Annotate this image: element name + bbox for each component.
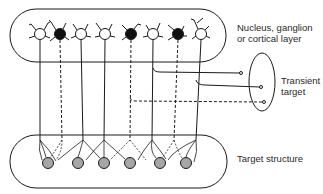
solid-axons xyxy=(40,40,260,140)
source-neurons xyxy=(29,18,210,41)
dashed-axons xyxy=(60,40,262,140)
open-neuron xyxy=(95,23,115,40)
open-neuron xyxy=(143,23,163,40)
target-cells xyxy=(43,158,192,169)
open-neuron xyxy=(191,18,210,40)
transient-terminals xyxy=(240,72,266,104)
target-structure-label: Target structure xyxy=(237,153,303,164)
target-terminal-fans xyxy=(39,140,196,162)
source-layer-label: Nucleus, ganglion or cortical layer xyxy=(237,22,313,44)
transient-target-outline xyxy=(249,53,275,111)
filled-neuron xyxy=(49,20,69,41)
open-neuron xyxy=(71,24,91,40)
open-neuron xyxy=(29,22,50,40)
filled-neuron xyxy=(122,24,141,40)
transient-target-label: Transient target xyxy=(281,75,320,97)
filled-neuron xyxy=(168,25,187,40)
